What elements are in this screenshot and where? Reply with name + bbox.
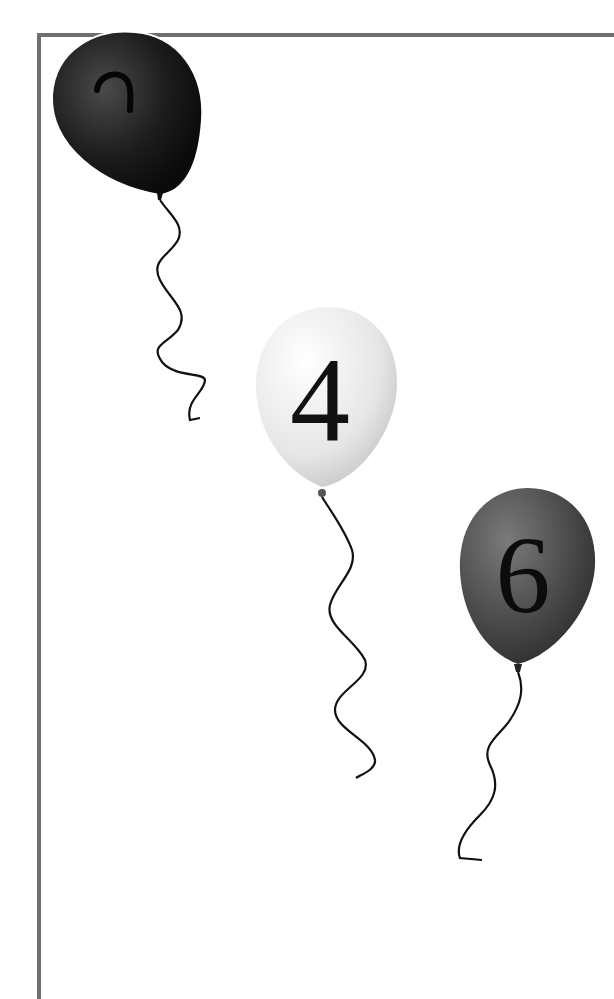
balloon-scene bbox=[0, 0, 614, 999]
balloon-6-number: 6 bbox=[488, 520, 558, 630]
balloon-4-number: 4 bbox=[280, 340, 360, 460]
